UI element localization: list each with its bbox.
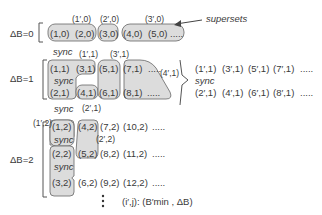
cell: ..... [300,87,313,98]
cell: (4,1) [77,87,97,98]
group-label: (2′,1) [82,103,101,113]
cell: (1′,1) [195,63,216,74]
cell: (5,0) [148,28,168,39]
cell: ..... [300,63,313,74]
delta-b-0-label: ΔB=0 [10,28,34,39]
cell: (8′,1) [273,87,294,98]
cell: (2,0) [75,28,95,39]
cell: (11,2) [123,148,147,159]
cell: (1,2) [52,121,72,132]
group-label: (2′,0) [100,14,119,24]
sync-label: sync [54,103,74,114]
cell: (2,1) [50,87,70,98]
group-label: (2′,2) [96,134,115,144]
cell: (3,1) [76,63,96,74]
cell: (12,2) [123,177,148,188]
group-label: (1′,1) [79,49,98,59]
sync-label: sync [54,161,74,172]
cell: (3′,1) [222,63,243,74]
cell: ..... [152,177,165,188]
cell: (7,2) [100,121,120,132]
group-label: (3′,0) [145,14,164,24]
sync-label: sync [54,75,74,86]
cell: ..... [152,121,165,132]
cell: (1,1) [50,63,70,74]
cell: (10,2) [123,121,148,132]
cell: (6,2) [78,177,98,188]
sync-label: sync [53,46,73,57]
delta-b-1-label: ΔB=1 [10,73,34,84]
cell: (1,0) [50,28,70,39]
delta-b-2-label: ΔB=2 [10,154,34,165]
cell: ..... [148,63,161,74]
cell: ..... [147,87,160,98]
cell: (5′,1) [248,63,269,74]
cell: ..... [170,28,183,39]
cell: ..... [152,148,165,159]
cell: (2′,1) [195,87,216,98]
cell: (8,1) [123,87,143,98]
cell: (6,1) [99,87,119,98]
cell: (3,2) [52,177,72,188]
cell: (7,1) [123,63,143,74]
cell: (4,0) [123,28,143,39]
cell: (5,1) [99,63,119,74]
cell: (7′,1) [273,63,294,74]
sync-label: sync [195,75,215,86]
legend-label: (i′,j): (B′min , ΔB) [122,196,193,207]
sync-label: sync [54,134,74,145]
cell: (3,0) [99,28,119,39]
group-label: (1′,0) [72,14,91,24]
cell: (4,2) [78,121,98,132]
cell: (2,2) [52,148,72,159]
cell: (8,2) [100,148,120,159]
cell: (6′,1) [248,87,269,98]
cell: (4′,1) [222,87,243,98]
group-label: (3′,1) [110,49,129,59]
cell: (9,2) [100,177,120,188]
group-label: (4′,1) [160,68,179,78]
group-label: (1′,2) [33,118,52,128]
cell: (5,2) [78,148,98,159]
supersets-label: supersets [206,13,247,24]
